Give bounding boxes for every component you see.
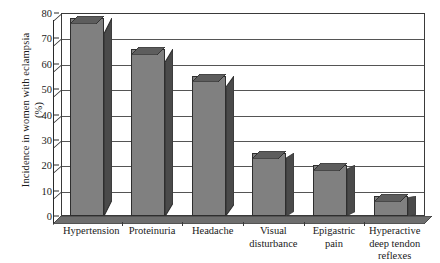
x-axis-category-label-line: Hypertension — [61, 225, 122, 238]
bar-top-face — [374, 188, 408, 196]
axis-ribbon-segment — [53, 65, 61, 73]
bar-top-face — [252, 145, 286, 153]
bar — [252, 153, 286, 216]
bar-side-face — [165, 49, 173, 216]
x-axis-category-labels: HypertensionProteinuriaHeadacheVisualdis… — [61, 225, 433, 263]
axis-ribbon-segment — [53, 116, 61, 124]
bar-chart: Incidence in women with eclampsia (%) 01… — [0, 0, 440, 263]
bar-front-face — [192, 76, 226, 216]
bar-top-face — [192, 68, 226, 76]
axis-ribbon-segment — [53, 141, 61, 149]
y-axis-tick-mark — [54, 190, 59, 191]
y-axis-tick-label: 60 — [42, 58, 53, 69]
bar — [374, 196, 408, 216]
x-axis-category-label-line: Hyperactive — [364, 225, 425, 238]
y-axis-tick-label: 30 — [42, 134, 53, 145]
x-axis-category-label-line: Headache — [182, 225, 243, 238]
y-axis-tick-mark — [54, 63, 59, 64]
bar-side-face — [104, 18, 112, 216]
y-axis-tick-mark — [54, 216, 59, 217]
x-axis-category-label: Proteinuria — [122, 225, 183, 238]
x-axis-category-label-line: Visual — [243, 225, 304, 238]
y-axis-tick-label: 50 — [42, 84, 53, 95]
y-axis-tick-label: 80 — [42, 8, 53, 19]
y-axis-tick-label: 20 — [42, 160, 53, 171]
y-axis-tick-labels: 01020304050607080 — [28, 0, 52, 263]
y-axis-tick-label: 10 — [42, 185, 53, 196]
bar-front-face — [313, 165, 347, 216]
x-axis-category-label: Hypertension — [61, 225, 122, 238]
x-axis-category-label-line: Epigastric — [304, 225, 365, 238]
y-axis-tick-label: 0 — [47, 211, 52, 222]
bar — [192, 76, 226, 216]
x-axis-category-label-line: deep tendon — [364, 238, 425, 251]
y-axis-tick-mark — [54, 38, 59, 39]
axis-ribbon-segment — [53, 90, 61, 98]
x-axis-category-label-line: Proteinuria — [122, 225, 183, 238]
x-axis-category-label: Epigastricpain — [304, 225, 365, 250]
axis-ribbon-segment — [53, 166, 61, 174]
bar-front-face — [131, 49, 165, 216]
bar-side-face — [347, 165, 355, 216]
x-axis-category-label: Headache — [182, 225, 243, 238]
x-axis-category-label-line: disturbance — [243, 238, 304, 251]
bar — [131, 49, 165, 216]
y-axis-tick-mark — [54, 114, 59, 115]
axis-ribbon-segment — [53, 14, 61, 22]
x-axis-category-label: Hyperactivedeep tendonreflexes — [364, 225, 425, 263]
axis-ribbon-segment — [53, 192, 61, 200]
x-axis-category-label: Visualdisturbance — [243, 225, 304, 250]
bar — [313, 165, 347, 216]
x-axis-category-label-line: pain — [304, 238, 365, 251]
y-axis-tick-mark — [54, 139, 59, 140]
x-axis-category-label-line: reflexes — [364, 250, 425, 263]
y-axis-tick-label: 70 — [42, 33, 53, 44]
bar-top-face — [313, 157, 347, 165]
bars-group — [61, 13, 433, 224]
bar — [70, 18, 104, 216]
bar-front-face — [252, 153, 286, 216]
bar-side-face — [408, 196, 416, 216]
bar-top-face — [70, 10, 104, 18]
axis-ribbon-segment — [53, 39, 61, 47]
y-axis-tick-mark — [54, 13, 59, 14]
y-axis-tick-mark — [54, 89, 59, 90]
bar-side-face — [286, 153, 294, 216]
bar-top-face — [131, 41, 165, 49]
bar-front-face — [70, 18, 104, 216]
y-axis-tick-mark — [54, 165, 59, 166]
bar-side-face — [226, 76, 234, 216]
y-axis-tick-label: 40 — [42, 109, 53, 120]
